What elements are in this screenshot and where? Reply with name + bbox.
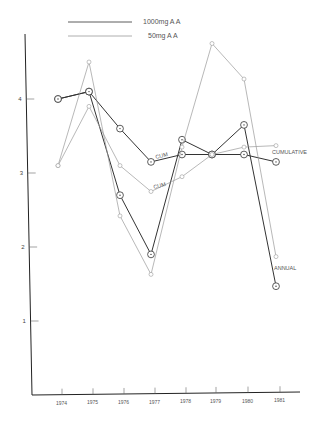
data-point-center xyxy=(243,154,244,155)
data-point-center xyxy=(119,195,120,196)
data-point-marker xyxy=(180,145,184,149)
data-point-marker xyxy=(87,104,91,108)
x-tick-label: 1975 xyxy=(87,399,98,405)
data-point-center xyxy=(119,128,120,129)
annotation-cum-50mg: CUM xyxy=(153,181,167,190)
data-point-marker xyxy=(149,272,153,276)
data-point-marker xyxy=(210,42,214,46)
data-point-marker xyxy=(274,255,278,259)
data-point-marker xyxy=(180,175,184,179)
x-axis-ticks: 19741975197619771978197919801981 xyxy=(56,386,285,405)
data-point-center xyxy=(57,98,58,99)
x-tick-label: 1976 xyxy=(118,399,129,405)
legend-label-50mg: 50mg A A xyxy=(148,32,178,40)
legend-label-1000mg: 1000mg A A xyxy=(143,18,181,26)
y-tick-label: 2 xyxy=(21,244,25,250)
data-point-center xyxy=(181,139,182,140)
series-lines xyxy=(55,42,280,290)
x-tick-label: 1981 xyxy=(274,397,285,403)
x-tick-label: 1977 xyxy=(149,399,160,405)
x-tick-label: 1974 xyxy=(56,400,67,406)
data-point-marker xyxy=(118,214,122,218)
y-tick-label: 3 xyxy=(20,170,24,176)
line-chart: 1000mg A A 50mg A A 1234 197419751976197… xyxy=(0,0,327,421)
data-point-center xyxy=(88,91,89,92)
data-point-marker xyxy=(87,60,91,64)
data-point-center xyxy=(243,124,244,125)
data-point-marker xyxy=(118,164,122,168)
data-point-marker xyxy=(56,164,60,168)
data-point-center xyxy=(275,161,276,162)
data-point-center xyxy=(275,286,276,287)
data-point-marker xyxy=(242,77,246,81)
data-point-marker xyxy=(242,145,246,149)
y-tick-label: 1 xyxy=(23,318,27,324)
annotation-annual: ANNUAL xyxy=(274,265,296,271)
series-line xyxy=(58,92,276,287)
legend: 1000mg A A 50mg A A xyxy=(68,18,181,40)
data-point-marker xyxy=(274,144,278,148)
x-axis xyxy=(32,392,300,395)
data-point-center xyxy=(150,254,151,255)
y-tick-label: 4 xyxy=(18,96,22,102)
annotation-cumulative: CUMULATIVE xyxy=(272,149,307,155)
data-point-marker xyxy=(149,190,153,194)
data-point-center xyxy=(150,161,151,162)
x-tick-label: 1978 xyxy=(180,398,191,404)
x-tick-label: 1980 xyxy=(242,398,253,404)
y-axis xyxy=(25,34,32,395)
x-tick-label: 1979 xyxy=(210,398,221,404)
data-point-center xyxy=(181,154,182,155)
data-point-marker xyxy=(210,153,214,157)
